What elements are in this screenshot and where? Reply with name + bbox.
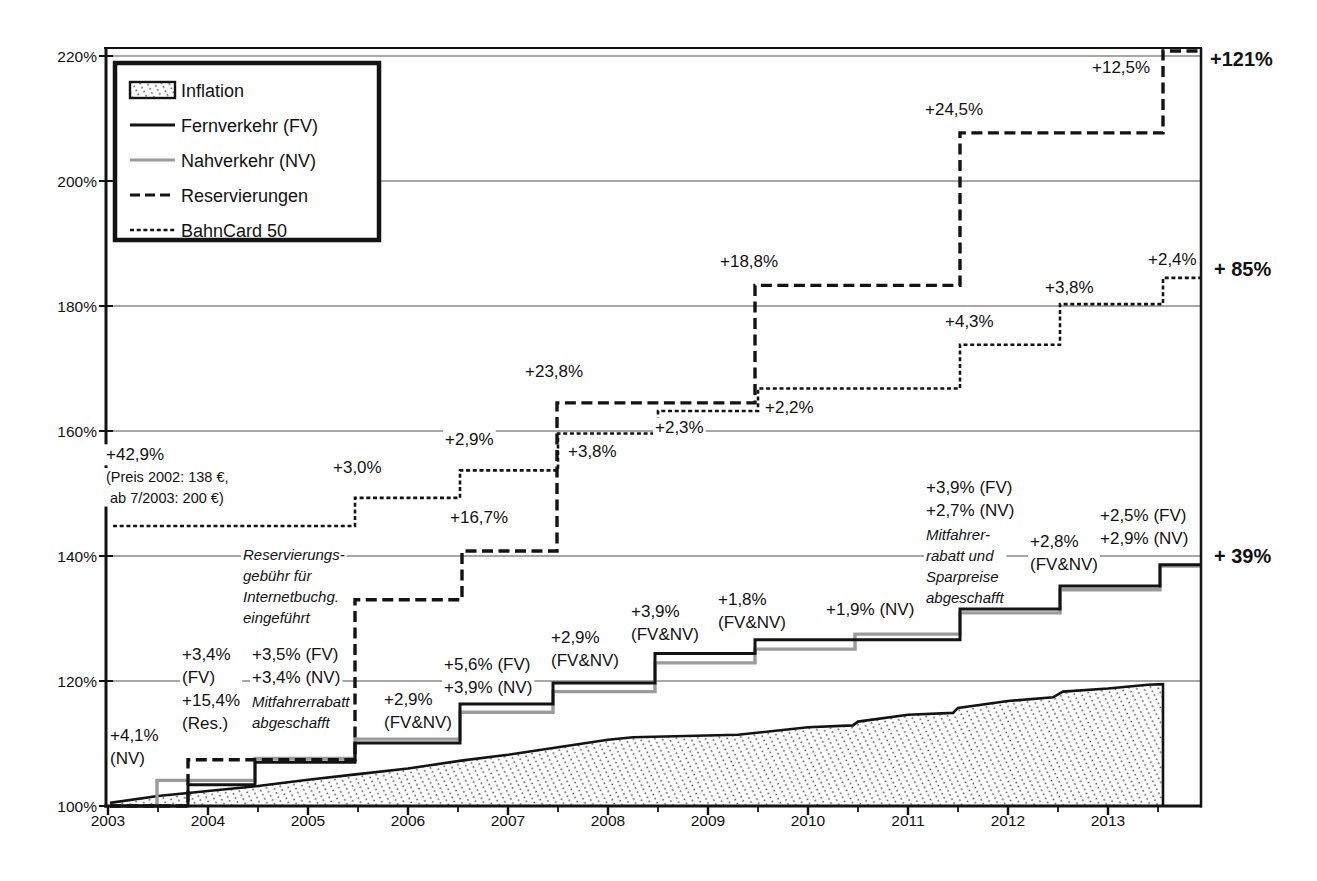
x-label-2011: 2011 bbox=[891, 812, 924, 829]
fv-nv-step-2011: +3,9% (FV)+2,7% (NV) bbox=[924, 477, 1016, 521]
note-mitfahrerrabatt-2004: Mitfahrerrabattabgeschafft bbox=[250, 692, 352, 732]
reservierung-step-2013-text: +12,5% bbox=[1092, 58, 1150, 77]
bahncard-step-2006-text: +2,9% bbox=[445, 430, 494, 449]
bahncard-step-2012-text: +3,8% bbox=[1045, 278, 1094, 297]
y-axis-labels: 100%120%140%160%180%200%220% bbox=[57, 48, 97, 815]
x-label-2003: 2003 bbox=[91, 812, 125, 829]
x-label-2006: 2006 bbox=[391, 812, 425, 829]
x-label-2005: 2005 bbox=[291, 812, 325, 829]
reservierung-step-2011: +24,5% bbox=[923, 99, 985, 120]
bahncard-start-note: (Preis 2002: 138 €, ab 7/2003: 200 €) bbox=[104, 468, 231, 507]
reservierung-step-2007: +23,8% bbox=[523, 361, 585, 382]
x-label-2004: 2004 bbox=[191, 812, 226, 829]
bahncard-step-2012: +3,8% bbox=[1043, 277, 1096, 298]
fv-nv-step-2013: +2,5% (FV)+2,9% (NV) bbox=[1098, 505, 1190, 549]
bahncard-step-2005: +3,0% bbox=[331, 457, 384, 478]
x-label-2010: 2010 bbox=[791, 812, 826, 829]
legend-label-nahverkehr-nv: Nahverkehr (NV) bbox=[181, 151, 316, 171]
y-label-180: 180% bbox=[57, 298, 97, 315]
legend-label-fernverkehr-fv: Fernverkehr (FV) bbox=[181, 116, 318, 136]
bahncard-step-2007: +3,8% bbox=[566, 441, 619, 462]
y-label-140: 140% bbox=[57, 548, 97, 565]
nv-step-2003: +4,1%(NV) bbox=[108, 725, 161, 769]
bahncard-step-2009: +2,2% bbox=[763, 397, 816, 418]
fv-nv-step-2012: +2,8%(FV&NV) bbox=[1028, 531, 1100, 575]
total-bahncard: + 85% bbox=[1212, 257, 1273, 281]
fv-nv-step-2004: +3,5% (FV)+3,4% (NV) bbox=[250, 644, 342, 688]
legend: InflationFernverkehr (FV)Nahverkehr (NV)… bbox=[115, 63, 379, 241]
legend-item-inflation: Inflation bbox=[130, 81, 244, 101]
total-reservierungen: +121% bbox=[1208, 47, 1275, 71]
total-fv-nv-text: + 39% bbox=[1214, 545, 1271, 567]
bahncard-step-2011-text: +4,3% bbox=[945, 312, 994, 331]
reservierung-step-2013: +12,5% bbox=[1090, 57, 1152, 78]
legend-label-bahncard-50: BahnCard 50 bbox=[181, 221, 287, 241]
bahncard-step-2013-text: +2,4% bbox=[1148, 250, 1197, 269]
legend-swatch-hatch bbox=[130, 82, 175, 98]
reservierung-step-2011-text: +24,5% bbox=[925, 100, 983, 119]
bahncard-start-label-text: +42,9% bbox=[106, 445, 164, 464]
x-axis-labels: 2003200420052006200720082009201020112012… bbox=[91, 812, 1125, 829]
bahncard-step-2009-text: +2,2% bbox=[765, 398, 814, 417]
legend-label-reservierungen: Reservierungen bbox=[181, 186, 308, 206]
reservierung-step-2009: +18,8% bbox=[718, 251, 780, 272]
note-mitfahrerrabatt-2011: Mitfahrer-rabatt undSparpreiseabgeschaff… bbox=[924, 525, 1006, 607]
chart-stage: 100%120%140%160%180%200%220%200320042005… bbox=[0, 0, 1317, 881]
price-increase-chart: 100%120%140%160%180%200%220%200320042005… bbox=[0, 0, 1317, 881]
nv-step-2010: +1,9% (NV) bbox=[824, 599, 916, 620]
x-label-2012: 2012 bbox=[991, 812, 1025, 829]
reservierung-step-2006-text: +16,7% bbox=[450, 508, 508, 527]
bahncard-step-2013: +2,4% bbox=[1146, 249, 1199, 270]
x-label-2007: 2007 bbox=[491, 812, 525, 829]
y-label-200: 200% bbox=[57, 173, 97, 190]
note-reservierungsgebuehr: Reservierungs-gebühr fürInternetbuchg.ei… bbox=[241, 545, 347, 627]
y-label-220: 220% bbox=[57, 48, 97, 65]
x-label-2013: 2013 bbox=[1091, 812, 1125, 829]
bahncard-step-2008-text: +2,3% bbox=[655, 418, 704, 437]
reservierung-step-2006: +16,7% bbox=[448, 507, 510, 528]
bahncard-step-2008: +2,3% bbox=[653, 417, 706, 438]
nv-step-2010-text: +1,9% (NV) bbox=[826, 600, 914, 619]
reservierung-step-2009-text: +18,8% bbox=[720, 252, 778, 271]
total-reservierungen-text: +121% bbox=[1210, 48, 1273, 70]
fv-nv-step-2009: +1,8%(FV&NV) bbox=[716, 589, 788, 633]
bahncard-start-label: +42,9% bbox=[104, 444, 166, 465]
fv-nv-step-2008: +3,9%(FV&NV) bbox=[629, 601, 701, 645]
bahncard-step-2011: +4,3% bbox=[943, 311, 996, 332]
legend-label-inflation: Inflation bbox=[181, 81, 244, 101]
fv-nv-step-2007: +2,9%(FV&NV) bbox=[549, 627, 621, 671]
bahncard-step-2005-text: +3,0% bbox=[333, 458, 382, 477]
fv-nv-step-2006: +5,6% (FV)+3,9% (NV) bbox=[442, 654, 534, 698]
fv-res-step-2003: +3,4%(FV)+15,4%(Res.) bbox=[180, 644, 242, 734]
total-bahncard-text: + 85% bbox=[1214, 258, 1271, 280]
x-label-2009: 2009 bbox=[691, 812, 725, 829]
bahncard-step-2006: +2,9% bbox=[443, 429, 496, 450]
total-fv-nv: + 39% bbox=[1212, 544, 1273, 568]
y-label-160: 160% bbox=[57, 423, 97, 440]
bahncard-step-2007-text: +3,8% bbox=[568, 442, 617, 461]
x-label-2008: 2008 bbox=[591, 812, 625, 829]
reservierung-step-2007-text: +23,8% bbox=[525, 362, 583, 381]
y-label-120: 120% bbox=[57, 673, 97, 690]
